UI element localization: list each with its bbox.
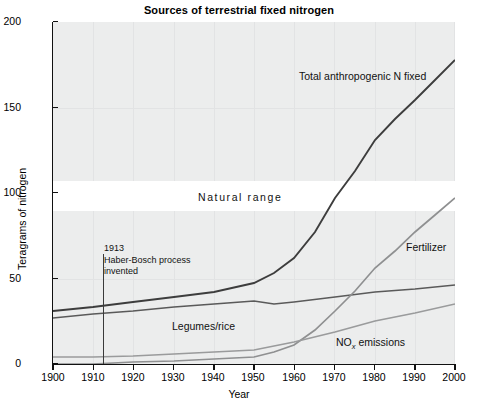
y-tick-0: 0	[15, 357, 21, 369]
y-tick-50: 50	[9, 272, 21, 284]
curve-legumes	[53, 285, 455, 318]
x-tick-1960: 1960	[279, 371, 309, 383]
series-label-nox: NOx emissions	[336, 336, 405, 351]
y-tick-150: 150	[3, 101, 21, 113]
x-tick-1910: 1910	[78, 371, 108, 383]
y-axis-label: Teragrams of nitrogen	[16, 168, 28, 270]
series-label-fertilizer: Fertilizer	[406, 241, 446, 253]
x-tick-1920: 1920	[118, 371, 148, 383]
x-tick-2000: 2000	[439, 371, 469, 383]
series-label-legumes: Legumes/rice	[172, 320, 235, 332]
chart-figure: Sources of terrestrial fixed nitrogen 20…	[0, 0, 478, 412]
x-tick-1900: 1900	[38, 371, 68, 383]
nox-prefix: NO	[336, 336, 352, 348]
x-tick-1970: 1970	[319, 371, 349, 383]
x-tick-1980: 1980	[359, 371, 389, 383]
natural-range-label: Natural range	[198, 191, 282, 203]
x-axis-label: Year	[0, 388, 478, 400]
annotation-year: 1913	[104, 243, 191, 255]
series-label-total: Total anthropogenic N fixed	[299, 70, 426, 82]
haber-bosch-annotation: 1913 Haber-Bosch process invented	[104, 243, 191, 278]
y-tick-200: 200	[3, 15, 21, 27]
x-tick-1940: 1940	[198, 371, 228, 383]
x-tick-1950: 1950	[238, 371, 268, 383]
nox-suffix: emissions	[356, 336, 406, 348]
x-tick-1990: 1990	[399, 371, 429, 383]
chart-title: Sources of terrestrial fixed nitrogen	[0, 4, 478, 16]
y-axis-line	[52, 22, 53, 365]
annotation-line3: invented	[104, 266, 191, 278]
annotation-line2: Haber-Bosch process	[104, 255, 191, 267]
x-tick-1930: 1930	[158, 371, 188, 383]
